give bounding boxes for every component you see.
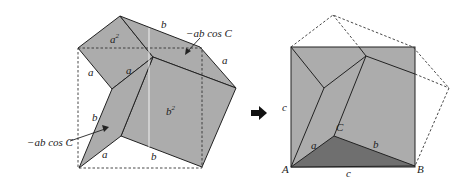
label-bottom-b: b (151, 150, 157, 162)
label-left-b: b (92, 111, 98, 123)
label-vertex-A: A (281, 163, 289, 175)
label-side-c-left: c (282, 101, 287, 113)
law-of-cosines-dissection-diagram: a2 b2 b −ab cos C a a a b −ab cos C a b … (0, 0, 471, 180)
right-arrow-icon (251, 106, 267, 120)
label-side-c-bottom: c (346, 167, 351, 179)
label-vertex-C: C (336, 121, 344, 133)
dashed-inner-right (333, 15, 359, 47)
label-vertex-B: B (417, 163, 424, 175)
left-figure: a2 b2 b −ab cos C a a a b −ab cos C a b (27, 16, 236, 168)
label-top-neg-ab-cosC: −ab cos C (186, 27, 233, 39)
dashed-inner-right-2 (415, 74, 449, 88)
label-left-a: a (88, 66, 94, 78)
diagram-svg: a2 b2 b −ab cos C a a a b −ab cos C a b … (0, 0, 471, 180)
label-side-b: b (373, 138, 379, 150)
right-figure: c C a b A c B (281, 15, 449, 179)
label-top-b: b (161, 18, 167, 30)
label-left-neg-ab-cosC: −ab cos C (27, 136, 74, 148)
label-side-a: a (311, 139, 317, 151)
label-inner-a: a (126, 64, 132, 76)
label-bottom-a: a (102, 148, 108, 160)
label-right-a: a (222, 54, 228, 66)
